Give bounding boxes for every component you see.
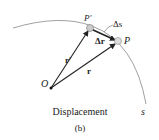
origin-label: O bbox=[41, 78, 48, 89]
displacement-diagram: O P' P Δs Δr r' r s Displacement (b) bbox=[0, 0, 159, 140]
delta-s-leader bbox=[104, 25, 113, 32]
path-curve-s bbox=[13, 20, 146, 104]
delta-r-label: Δr bbox=[95, 36, 105, 46]
origin-point bbox=[50, 87, 53, 90]
delta-s-label: Δs bbox=[113, 19, 123, 29]
sublabel: (b) bbox=[75, 123, 86, 133]
r-label: r bbox=[87, 66, 91, 76]
particle-p-prime bbox=[87, 25, 94, 32]
point-prime-label: P' bbox=[83, 13, 92, 23]
point-label: P bbox=[123, 35, 130, 46]
path-label-s: s bbox=[141, 106, 145, 117]
particle-p bbox=[115, 38, 122, 45]
vector-r bbox=[51, 44, 115, 88]
caption: Displacement bbox=[53, 106, 108, 117]
r-prime-label: r' bbox=[65, 55, 72, 65]
